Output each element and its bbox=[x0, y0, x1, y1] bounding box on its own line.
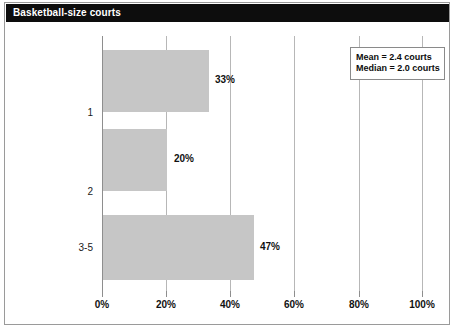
x-axis-tick-20 bbox=[166, 291, 167, 297]
legend-mean-text: Mean = 2.4 courts bbox=[356, 52, 439, 63]
x-axis-tick-label-20: 20% bbox=[136, 299, 196, 310]
x-axis-tick-label-60: 60% bbox=[264, 299, 324, 310]
y-axis-labels: 1 2 3-5 bbox=[45, 36, 93, 291]
x-axis-tick-label-100: 100% bbox=[392, 299, 450, 310]
y-axis-tick-label: 2 bbox=[87, 186, 93, 197]
x-axis-tick-40 bbox=[230, 291, 231, 297]
x-axis-tick-0 bbox=[102, 291, 103, 297]
x-axis-tick-100 bbox=[422, 291, 423, 297]
bar-category-2 bbox=[103, 129, 167, 191]
x-axis-tick-label-0: 0% bbox=[72, 299, 132, 310]
gridline-60 bbox=[294, 36, 295, 291]
x-axis-tick-label-40: 40% bbox=[200, 299, 260, 310]
x-axis-tick-label-80: 80% bbox=[329, 299, 389, 310]
legend-median-text: Median = 2.0 courts bbox=[356, 63, 439, 74]
statistics-legend-box: Mean = 2.4 courts Median = 2.0 courts bbox=[350, 47, 445, 80]
page-title: Basketball-size courts bbox=[13, 7, 121, 18]
y-axis-tick-label: 1 bbox=[87, 107, 93, 118]
bar-category-3-5 bbox=[103, 215, 254, 280]
bar-value-label-2: 20% bbox=[174, 153, 194, 164]
y-axis-tick-label: 3-5 bbox=[79, 242, 93, 253]
x-axis-tick-60 bbox=[294, 291, 295, 297]
bar-value-label-3-5: 47% bbox=[260, 241, 280, 252]
chart-title-bar: Basketball-size courts bbox=[6, 4, 450, 22]
chart-container: Basketball-size courts 1 2 3-5 33% 20% 4… bbox=[4, 2, 450, 325]
x-axis-tick-80 bbox=[359, 291, 360, 297]
bar-value-label-1: 33% bbox=[215, 74, 235, 85]
bar-category-1 bbox=[103, 50, 209, 112]
